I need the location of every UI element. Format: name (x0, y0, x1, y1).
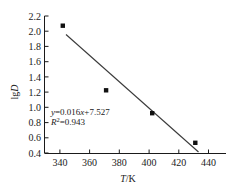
x-tick-label: 340 (52, 157, 67, 168)
y-tick-label: 1.4 (29, 72, 42, 83)
x-tick-label: 400 (142, 157, 157, 168)
y-tick-label: 1.0 (29, 102, 42, 113)
data-point-marker (193, 141, 197, 145)
chart-figure: 2.2 2.0 1.8 1.6 1.4 1.2 1.0 0.8 0.6 0.4 … (0, 0, 241, 196)
data-point-marker (61, 24, 65, 28)
y-tick-label: 1.8 (29, 41, 42, 52)
x-axis-title: T/K (120, 173, 136, 184)
data-point-marker (150, 111, 154, 115)
data-point-marker (104, 88, 108, 92)
x-tick-label: 440 (201, 157, 216, 168)
y-tick-label: 1.2 (29, 87, 42, 98)
y-tick-label: 0.8 (29, 117, 42, 128)
scatter-plot-svg: 2.2 2.0 1.8 1.6 1.4 1.2 1.0 0.8 0.6 0.4 … (0, 0, 241, 196)
r-squared-annotation: R2=0.943 (50, 116, 86, 127)
y-axis-title: lgD (9, 84, 20, 100)
r-squared-value: =0.943 (60, 117, 86, 127)
x-tick-label: 380 (112, 157, 127, 168)
y-tick-label: 0.6 (29, 132, 42, 143)
y-tick-label: 2.2 (29, 11, 42, 22)
y-axis-title-symbol: D (9, 84, 20, 93)
equation-intercept: +7.527 (84, 107, 110, 117)
y-tick-label: 2.0 (29, 26, 42, 37)
y-tick-label: 0.4 (29, 148, 42, 159)
y-axis-title-prefix: lg (9, 92, 20, 100)
x-axis-title-unit: /K (126, 173, 137, 184)
x-tick-label: 360 (82, 157, 97, 168)
y-tick-label: 1.6 (29, 56, 42, 67)
x-tick-label: 420 (171, 157, 186, 168)
